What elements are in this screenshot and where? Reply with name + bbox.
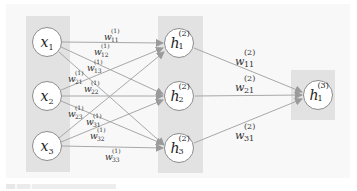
neural-network-diagram: x1 x2 x3 h(2)1 h(2)2 h(2)3 h(3)1 w(1)11 …	[0, 0, 357, 191]
weight-w33-1: w(1)33	[105, 153, 113, 162]
node-subscript: 3	[178, 148, 183, 156]
node-x3: x3	[32, 131, 62, 161]
node-subscript: 2	[178, 96, 183, 104]
node-subscript: 1	[178, 43, 183, 51]
node-subscript: 3	[48, 147, 53, 156]
weight-w11-2: w(2)11	[235, 56, 244, 67]
node-subscript: 1	[48, 43, 53, 52]
node-x2: x2	[32, 81, 62, 111]
weight-w12-1: w(1)12	[94, 48, 102, 57]
weight-w32-1: w(1)32	[90, 132, 98, 141]
edge-x3-h1	[59, 52, 164, 138]
weight-w13-1: w(1)13	[87, 64, 95, 73]
edge-x1-h3	[59, 52, 164, 145]
node-x1: x1	[32, 27, 62, 57]
weight-w23-1: w(1)23	[68, 110, 76, 119]
weight-w31-1: w(1)31	[86, 118, 94, 127]
cropped-caption	[6, 184, 116, 189]
node-h1-layer2: h(2)1	[164, 28, 194, 58]
weight-w21-2: w(2)21	[235, 82, 244, 93]
node-subscript: 1	[317, 95, 322, 103]
node-superscript: (2)	[178, 30, 189, 38]
weight-w31-2: w(2)31	[235, 130, 244, 141]
node-superscript: (2)	[178, 135, 189, 143]
node-h2-layer2: h(2)2	[164, 81, 194, 111]
node-h1-layer3: h(3)1	[303, 80, 333, 110]
weight-w21-1: w(1)21	[68, 75, 76, 84]
edge-h2-out	[195, 95, 302, 96]
weight-w11-1: w(1)11	[104, 33, 112, 42]
node-h3-layer2: h(2)3	[164, 133, 194, 163]
node-superscript: (3)	[317, 82, 328, 90]
node-superscript: (2)	[178, 83, 189, 91]
node-subscript: 2	[48, 97, 53, 106]
weight-w22-1: w(1)22	[84, 85, 92, 94]
